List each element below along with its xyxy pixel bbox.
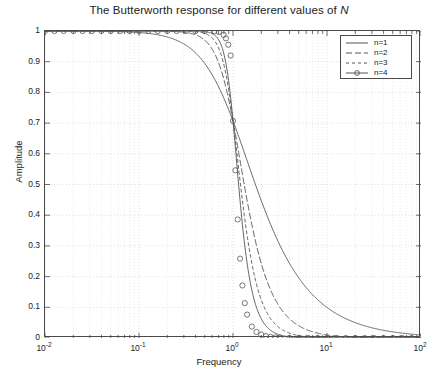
x-tick-label: 10-2 — [36, 341, 51, 353]
legend-item-n3[interactable]: n=3 — [344, 58, 408, 68]
legend-label: n=2 — [370, 48, 388, 58]
x-tick-label: 100 — [225, 341, 238, 353]
x-tick-label: 101 — [319, 341, 332, 353]
figure: The Butterworth response for different v… — [0, 0, 438, 376]
legend-label: n=3 — [370, 58, 388, 68]
legend-swatch-n1 — [344, 38, 370, 48]
x-tick-label: 102 — [413, 341, 426, 353]
legend: n=1n=2n=3n=4 — [340, 35, 412, 79]
x-tick-label: 10-1 — [130, 341, 145, 353]
legend-swatch-n2 — [344, 48, 370, 58]
legend-item-n1[interactable]: n=1 — [344, 38, 408, 48]
legend-swatch-n3 — [344, 58, 370, 68]
legend-label: n=4 — [370, 68, 388, 78]
legend-swatch-n4 — [344, 68, 370, 78]
legend-label: n=1 — [370, 38, 388, 48]
legend-item-n4[interactable]: n=4 — [344, 68, 408, 78]
x-axis-label: Frequency — [0, 356, 438, 367]
legend-item-n2[interactable]: n=2 — [344, 48, 408, 58]
